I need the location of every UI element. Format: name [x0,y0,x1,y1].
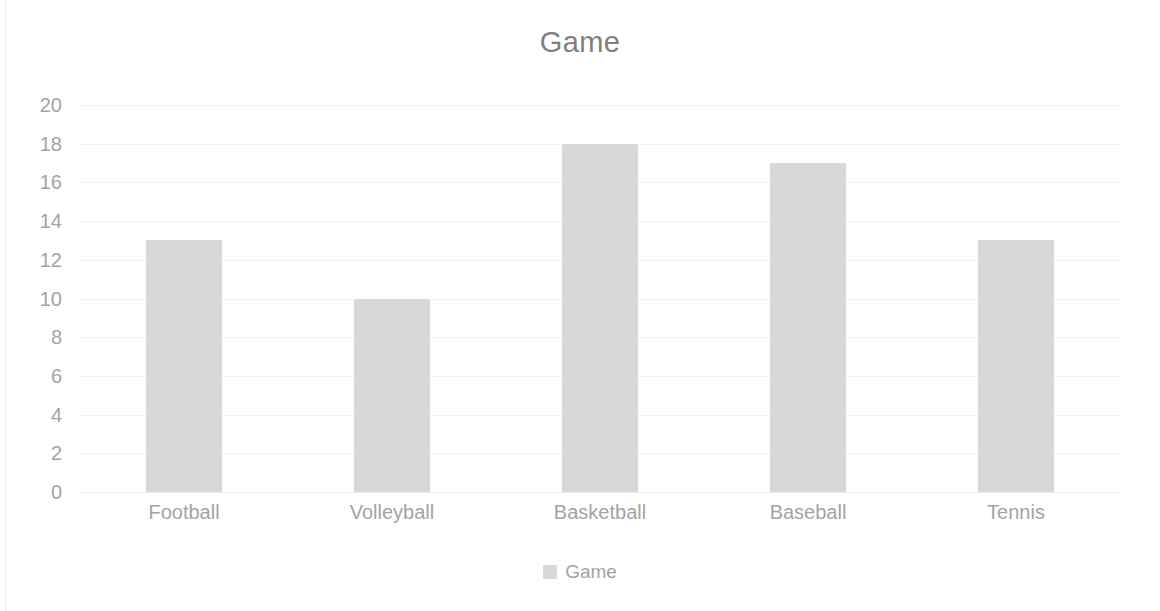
y-axis-tick-label: 10 [0,289,62,309]
y-axis-tick-label: 16 [0,172,62,192]
bar-slot [288,105,496,492]
bar-slot [912,105,1120,492]
x-axis-label-basketball: Basketball [554,500,646,524]
y-axis-tick-label: 20 [0,95,62,115]
y-axis-tick-label: 18 [0,134,62,154]
bar-basketball[interactable] [562,144,638,492]
plot-area [80,105,1120,492]
bar-slot [704,105,912,492]
bar-baseball[interactable] [770,163,846,492]
bar-volleyball[interactable] [354,299,430,493]
bar-slot [80,105,288,492]
bar-chart: Game 20181614121086420 FootballVolleybal… [0,0,1160,611]
chart-title: Game [0,28,1160,57]
legend-label-game: Game [565,562,617,581]
gridline [80,492,1120,493]
x-axis-label-football: Football [148,500,219,524]
x-axis-label-volleyball: Volleyball [350,500,435,524]
y-axis-tick-label: 4 [0,405,62,425]
chart-legend: Game [0,562,1160,581]
legend-swatch-game [543,565,557,579]
x-axis-label-baseball: Baseball [770,500,847,524]
y-axis-tick-label: 14 [0,211,62,231]
bar-football[interactable] [146,240,222,492]
bar-series-game [80,105,1120,492]
x-axis-label-tennis: Tennis [987,500,1045,524]
x-axis-category-labels: FootballVolleyballBasketballBaseballTenn… [80,500,1120,534]
y-axis-tick-label: 2 [0,443,62,463]
bar-slot [496,105,704,492]
y-axis-tick-label: 6 [0,366,62,386]
bar-tennis[interactable] [978,240,1054,492]
y-axis-tick-label: 12 [0,250,62,270]
y-axis-tick-labels: 20181614121086420 [0,105,62,492]
y-axis-tick-label: 0 [0,482,62,502]
y-axis-tick-label: 8 [0,327,62,347]
